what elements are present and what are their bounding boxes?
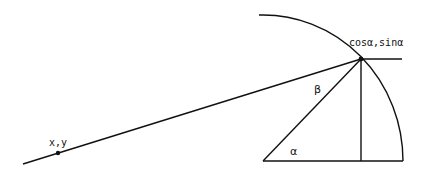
label-xy: x,y: [49, 137, 67, 148]
diagram-canvas: x,y cosα,sinα α β: [0, 0, 429, 177]
label-beta: β: [314, 83, 321, 96]
point-xy: [56, 151, 60, 155]
point-cos-sin: [359, 57, 364, 62]
label-cos-sin: cosα,sinα: [349, 37, 403, 48]
label-alpha: α: [290, 145, 297, 158]
